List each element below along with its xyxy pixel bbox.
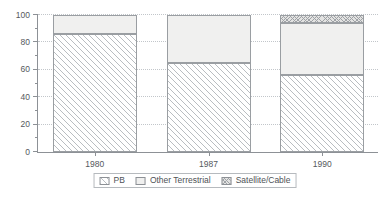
bar-group-1990[interactable] <box>280 15 364 152</box>
y-axis-minor-tick <box>35 83 38 84</box>
chart-legend: PB Other Terrestrial Satellite/Cable <box>94 173 297 188</box>
x-axis-label-1990: 1990 <box>313 160 332 169</box>
x-axis-label-1980: 1980 <box>85 160 104 169</box>
stacked-bar-chart: 100806040200198019871990 PB Other Terres… <box>0 0 390 197</box>
y-axis-label: 100 <box>16 11 30 20</box>
bar-segment[interactable] <box>280 15 364 23</box>
x-axis-label-1987: 1987 <box>199 160 218 169</box>
legend-label-other-terrestrial: Other Terrestrial <box>150 176 211 185</box>
plot-area: 100806040200198019871990 <box>37 15 378 153</box>
y-axis-minor-tick <box>35 110 38 111</box>
bar-group-1980[interactable] <box>53 15 137 152</box>
legend-label-pb: PB <box>114 176 125 185</box>
y-axis-label: 80 <box>21 38 30 47</box>
y-axis-minor-tick <box>35 137 38 138</box>
plot-inner: 100806040200198019871990 <box>38 15 378 152</box>
bar-segment[interactable] <box>53 34 137 152</box>
y-axis-label: 0 <box>25 148 30 157</box>
y-axis-label: 40 <box>21 93 30 102</box>
legend-item-pb[interactable]: PB <box>100 176 125 185</box>
y-axis-tick <box>33 96 38 97</box>
legend-label-satellite-cable: Satellite/Cable <box>236 176 291 185</box>
legend-item-satellite-cable[interactable]: Satellite/Cable <box>222 176 291 185</box>
y-axis-label: 60 <box>21 66 30 75</box>
y-axis-tick <box>33 14 38 15</box>
bar-segment[interactable] <box>53 15 137 34</box>
x-axis-tick <box>209 152 210 156</box>
y-axis-tick <box>33 151 38 152</box>
legend-item-other-terrestrial[interactable]: Other Terrestrial <box>136 176 211 185</box>
y-axis-minor-tick <box>35 28 38 29</box>
bar-segment[interactable] <box>167 63 251 152</box>
bar-segment[interactable] <box>167 15 251 63</box>
bar-group-1987[interactable] <box>167 15 251 152</box>
y-axis-tick <box>33 69 38 70</box>
y-axis-label: 20 <box>21 120 30 129</box>
y-axis-tick <box>33 124 38 125</box>
bar-segment[interactable] <box>280 75 364 152</box>
legend-swatch-other-terrestrial-icon <box>136 177 146 185</box>
legend-swatch-satellite-cable-icon <box>222 177 232 185</box>
bar-segment[interactable] <box>280 23 364 75</box>
x-axis-tick <box>322 152 323 156</box>
legend-swatch-pb-icon <box>100 177 110 185</box>
y-axis-tick <box>33 41 38 42</box>
x-axis-tick <box>95 152 96 156</box>
y-axis-minor-tick <box>35 55 38 56</box>
